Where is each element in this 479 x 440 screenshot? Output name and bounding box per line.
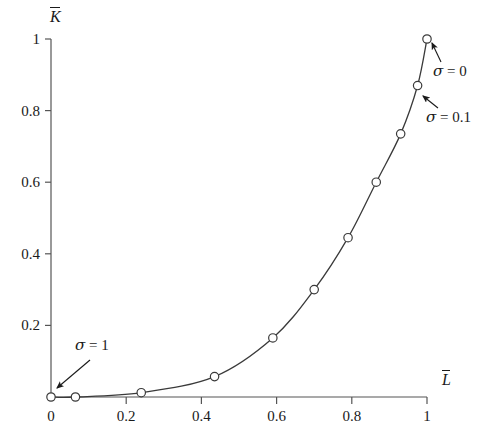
annotation-arrow-sigma-0-1: [423, 96, 438, 108]
y-tick-label: 0.6: [21, 175, 40, 190]
x-tick-label: 0.8: [342, 409, 361, 424]
y-axis-title: K: [50, 8, 61, 25]
annotation-value: = 0: [443, 63, 466, 79]
y-tick-label: 0.2: [21, 318, 40, 333]
x-tick-label: 1: [423, 409, 431, 424]
data-point-marker: [413, 81, 421, 89]
annotation-sigma-1: σ = 1: [75, 338, 109, 353]
sigma-symbol: σ: [433, 62, 443, 80]
x-axis-ticks: [126, 397, 427, 404]
annotation-arrow-sigma-1: [57, 360, 90, 388]
sigma-symbol: σ: [75, 336, 85, 354]
y-tick-label: 1: [33, 32, 41, 47]
data-point-marker: [269, 334, 277, 342]
annotation-arrow-sigma-0: [432, 43, 441, 62]
data-point-marker: [71, 393, 79, 401]
chart-canvas: [0, 0, 479, 440]
data-point-marker: [137, 389, 145, 397]
annotation-value: = 0.1: [436, 109, 471, 125]
data-point-marker: [210, 372, 218, 380]
y-axis-title-text: K: [50, 8, 61, 25]
x-tick-label: 0.6: [267, 409, 286, 424]
y-tick-label: 0.4: [21, 246, 40, 261]
data-point-marker: [47, 393, 55, 401]
sigma-symbol: σ: [426, 108, 436, 126]
data-point-marker: [372, 178, 380, 186]
annotation-value: = 1: [85, 337, 108, 353]
annotation-sigma-0-1: σ = 0.1: [426, 110, 471, 125]
annotation-arrows: [57, 43, 441, 388]
x-axis-title-text: L: [442, 371, 451, 388]
data-point-marker: [423, 35, 431, 43]
x-tick-label: 0: [47, 409, 55, 424]
y-axis-ticks: [45, 39, 51, 325]
annotation-sigma-0: σ = 0: [433, 64, 467, 79]
data-point-marker: [344, 233, 352, 241]
data-point-marker: [396, 130, 404, 138]
figure-container: 0.20.40.60.8100.20.40.60.81 K L σ = 1σ =…: [0, 0, 479, 440]
data-point-marker: [310, 285, 318, 293]
x-axis-title: L: [442, 371, 451, 388]
y-tick-label: 0.8: [21, 103, 40, 118]
x-tick-label: 0.2: [117, 409, 136, 424]
x-tick-label: 0.4: [192, 409, 211, 424]
